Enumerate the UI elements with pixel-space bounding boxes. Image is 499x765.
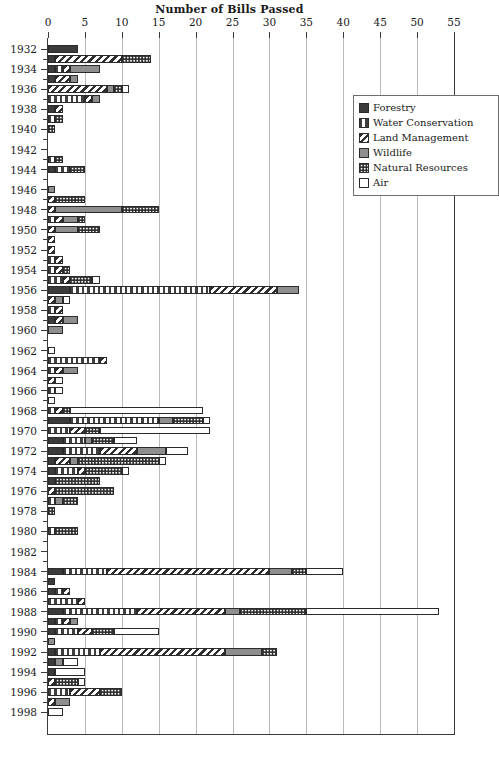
bar-segment-air <box>78 678 85 686</box>
y-tick-1986 <box>41 591 48 592</box>
bar-segment-natural-resources <box>78 216 85 224</box>
bar-segment-water-conservation <box>48 407 55 415</box>
bar-segment-land-management <box>55 457 70 465</box>
bar-segment-forestry <box>48 45 78 53</box>
bar-segment-water-conservation <box>55 588 62 596</box>
bar-segment-natural-resources <box>55 115 62 123</box>
bar-row <box>48 456 454 466</box>
bar-row <box>48 74 454 84</box>
bar-segment-water-conservation <box>63 568 107 576</box>
bar-segment-natural-resources <box>78 226 100 234</box>
bar-segment-land-management <box>55 55 121 63</box>
y-tick-1990 <box>41 631 48 632</box>
bar-segment-wildlife <box>55 226 77 234</box>
y-tick-1984 <box>41 571 48 572</box>
bar-row <box>48 526 454 536</box>
bar-row <box>48 225 454 235</box>
bar-row <box>48 285 454 295</box>
y-axis-label-1986: 1986 <box>10 586 37 598</box>
y-axis-label-1994: 1994 <box>10 666 37 678</box>
bar-segment-forestry <box>48 457 55 465</box>
y-axis-label-1964: 1964 <box>10 365 37 377</box>
y-tick-1950 <box>41 229 48 230</box>
y-tick-1988 <box>41 611 48 612</box>
bar-segment-land-management <box>70 688 100 696</box>
bar-row <box>48 637 454 647</box>
bar-segment-natural-resources <box>78 457 159 465</box>
bar-segment-water-conservation <box>63 437 85 445</box>
bar-row <box>48 436 454 446</box>
bar-segment-land-management <box>55 216 62 224</box>
bar-segment-wildlife <box>63 367 78 375</box>
bar-segment-land-management <box>137 608 226 616</box>
bar-row <box>48 466 454 476</box>
y-axis-label-1952: 1952 <box>10 244 37 256</box>
legend-label: Wildlife <box>373 148 412 158</box>
bar-segment-land-management <box>48 236 55 244</box>
bar-segment-wildlife <box>225 608 240 616</box>
legend-label: Air <box>373 178 388 188</box>
legend-label: Forestry <box>373 103 416 113</box>
bar-segment-air <box>203 417 210 425</box>
chart-title: Number of Bills Passed <box>0 3 459 16</box>
y-tick-1952 <box>41 250 48 251</box>
bar-segment-land-management <box>48 246 55 254</box>
y-axis-label-1940: 1940 <box>10 123 37 135</box>
bar-segment-land-management <box>210 286 276 294</box>
bar-row <box>48 84 454 94</box>
bar-segment-land-management <box>100 357 107 365</box>
bar-segment-wildlife <box>55 296 62 304</box>
bar-segment-wildlife <box>70 457 77 465</box>
bar-segment-land-management <box>48 377 55 385</box>
bar-segment-land-management <box>48 678 55 686</box>
y-tick-1966 <box>41 390 48 391</box>
bar-segment-natural-resources <box>114 85 121 93</box>
bar-row <box>48 506 454 516</box>
bar-segment-natural-resources <box>48 507 55 515</box>
bar-segment-forestry <box>48 608 63 616</box>
bar-segment-natural-resources <box>55 527 77 535</box>
legend-item-land-management: Land Management <box>359 130 493 145</box>
bar-segment-land-management <box>55 266 62 274</box>
bar-segment-water-conservation <box>48 306 55 314</box>
y-tick-1954 <box>41 270 48 271</box>
y-axis-label-1988: 1988 <box>10 606 37 618</box>
bar-segment-land-management <box>48 85 107 93</box>
x-tick-55 <box>454 32 455 38</box>
bar-segment-natural-resources <box>240 608 306 616</box>
y-tick-1938 <box>41 109 48 110</box>
bar-segment-forestry <box>48 568 63 576</box>
bar-row <box>48 305 454 315</box>
bar-segment-water-conservation <box>48 598 78 606</box>
y-axis-label-1984: 1984 <box>10 566 37 578</box>
y-tick-1996 <box>41 692 48 693</box>
bar-segment-natural-resources <box>122 206 159 214</box>
y-tick-1992 <box>41 652 48 653</box>
bar-segment-water-conservation <box>48 357 100 365</box>
bar-segment-water-conservation <box>48 276 63 284</box>
bar-row <box>48 627 454 637</box>
bar-segment-air <box>166 447 188 455</box>
y-axis-label-1948: 1948 <box>10 204 37 216</box>
bar-segment-water-conservation <box>55 628 77 636</box>
bar-segment-water-conservation <box>48 216 55 224</box>
y-tick-1948 <box>41 209 48 210</box>
bar-segment-forestry <box>48 648 55 656</box>
y-tick-1998 <box>41 712 48 713</box>
bar-segment-water-conservation <box>48 156 55 164</box>
bar-segment-water-conservation <box>48 115 55 123</box>
bar-segment-land-management <box>107 568 269 576</box>
bar-segment-natural-resources <box>55 196 85 204</box>
x-tick-label-25: 25 <box>218 16 248 28</box>
bar-segment-forestry <box>48 668 55 676</box>
x-tick-0 <box>48 32 49 38</box>
y-tick-1932 <box>41 49 48 50</box>
legend-swatch-forestry <box>359 103 369 113</box>
bar-segment-wildlife <box>63 316 78 324</box>
bar-segment-water-conservation <box>70 417 159 425</box>
bar-segment-land-management <box>55 105 62 113</box>
bar-segment-natural-resources <box>48 125 55 133</box>
x-tick-label-40: 40 <box>328 16 358 28</box>
bar-segment-air <box>92 276 99 284</box>
bar-segment-land-management <box>100 447 137 455</box>
